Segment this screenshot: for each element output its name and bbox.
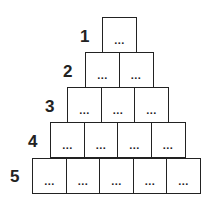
cell-text: ... — [111, 175, 122, 193]
row-label-1: 1 — [80, 27, 89, 47]
pyramid-cell: ... — [166, 158, 201, 194]
cell-text: ... — [44, 175, 55, 193]
cell-text: ... — [114, 34, 125, 52]
pyramid-cell: ... — [66, 158, 101, 194]
pyramid-row-5: ... ... ... ... ... — [32, 158, 201, 193]
cell-text: ... — [163, 139, 174, 157]
pyramid-cell: ... — [151, 122, 186, 158]
pyramid-cell: ... — [117, 122, 152, 158]
cell-text: ... — [131, 69, 142, 87]
pyramid-cell: ... — [50, 122, 85, 158]
cell-text: ... — [129, 139, 140, 157]
cell-text: ... — [96, 139, 107, 157]
pyramid-cell: ... — [84, 122, 119, 158]
pyramid-row-2: ... ... — [85, 52, 154, 87]
row-label-4: 4 — [28, 132, 37, 152]
row-label-3: 3 — [45, 97, 54, 117]
pyramid-cell: ... — [67, 87, 102, 123]
pyramid-cell: ... — [85, 52, 120, 88]
pyramid-cell: ... — [102, 17, 137, 53]
row-label-2: 2 — [63, 62, 72, 82]
cell-text: ... — [145, 175, 156, 193]
cell-text: ... — [97, 69, 108, 87]
cell-text: ... — [178, 175, 189, 193]
cell-text: ... — [113, 104, 124, 122]
cell-text: ... — [78, 175, 89, 193]
pyramid-row-4: ... ... ... ... — [50, 122, 186, 157]
pyramid-cell: ... — [32, 158, 67, 194]
pyramid-cell: ... — [101, 87, 136, 123]
cell-text: ... — [146, 104, 157, 122]
cell-text: ... — [62, 139, 73, 157]
pyramid-cell: ... — [133, 158, 168, 194]
cell-text: ... — [79, 104, 90, 122]
pyramid-cell: ... — [134, 87, 169, 123]
pyramid-cell: ... — [99, 158, 134, 194]
pyramid-cell: ... — [119, 52, 154, 88]
row-label-5: 5 — [10, 167, 19, 187]
pyramid-row-3: ... ... ... — [67, 87, 169, 122]
pyramid-row-1: ... — [102, 17, 137, 52]
